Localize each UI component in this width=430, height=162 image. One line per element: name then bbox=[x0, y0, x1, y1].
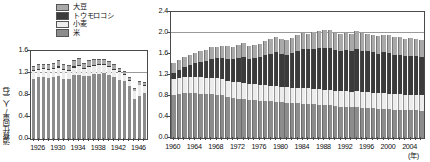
bar-segment-wheat bbox=[381, 93, 385, 108]
bar-segment-corn bbox=[279, 54, 283, 87]
bar-segment-rice bbox=[419, 111, 423, 138]
bar-segment-corn bbox=[209, 59, 213, 78]
bar-segment-rice bbox=[220, 95, 224, 138]
x-tick-mark bbox=[297, 137, 298, 140]
bar-segment-wheat bbox=[188, 77, 192, 93]
x-tick-mark bbox=[291, 137, 292, 140]
x-tick-label: 1984 bbox=[294, 142, 309, 151]
bar-segment-wheat bbox=[333, 91, 337, 106]
x-tick-mark bbox=[88, 138, 89, 141]
x-tick-mark bbox=[329, 137, 330, 140]
x-tick-mark bbox=[345, 137, 346, 140]
bar-segment-soy bbox=[408, 38, 412, 56]
x-tick-mark bbox=[58, 138, 59, 141]
bar-1967 bbox=[209, 47, 213, 138]
bar-segment-corn bbox=[284, 55, 288, 88]
bar-segment-wheat bbox=[133, 91, 136, 99]
bar-segment-corn bbox=[177, 70, 181, 78]
bar-segment-soy bbox=[274, 37, 278, 52]
bar-segment-soy bbox=[215, 47, 219, 59]
bar-segment-soy bbox=[360, 33, 364, 51]
x-tick-mark bbox=[221, 137, 222, 140]
bar-segment-wheat bbox=[311, 89, 315, 105]
x-tick-mark bbox=[286, 137, 287, 140]
bar-segment-wheat bbox=[247, 84, 251, 100]
bar-segment-rice bbox=[82, 76, 85, 139]
bar-segment-soy bbox=[77, 58, 80, 65]
bar-segment-rice bbox=[138, 96, 141, 139]
bar-segment-rice bbox=[338, 107, 342, 139]
bar-segment-wheat bbox=[371, 93, 375, 108]
x-tick-mark bbox=[63, 138, 64, 141]
bar-segment-rice bbox=[37, 77, 40, 139]
bar-segment-wheat bbox=[204, 78, 208, 95]
bar-segment-rice bbox=[274, 102, 278, 138]
bar-segment-corn bbox=[301, 49, 305, 88]
bar-segment-rice bbox=[236, 99, 240, 138]
bar-segment-corn bbox=[349, 51, 353, 91]
bar-segment-wheat bbox=[57, 68, 60, 77]
bar-segment-rice bbox=[279, 102, 283, 138]
bar-segment-wheat bbox=[177, 78, 181, 94]
bar-segment-wheat bbox=[392, 94, 396, 109]
x-tick-mark bbox=[323, 137, 324, 140]
bar-segment-wheat bbox=[182, 77, 186, 93]
legend-swatch-wheat-icon bbox=[56, 21, 69, 29]
bar-segment-corn bbox=[274, 52, 278, 86]
x-tick-label: 1972 bbox=[230, 142, 245, 151]
bar-segment-corn bbox=[317, 48, 321, 89]
bar-1942 bbox=[118, 68, 121, 139]
bar-1937 bbox=[92, 59, 95, 139]
bar-segment-corn bbox=[215, 58, 219, 78]
y-tick-label: 0.0 bbox=[11, 133, 28, 142]
bar-segment-rice bbox=[47, 78, 50, 139]
bar-1972 bbox=[236, 45, 240, 138]
bar-1979 bbox=[274, 37, 278, 138]
bar-segment-wheat bbox=[387, 94, 391, 109]
bar-segment-corn bbox=[220, 58, 224, 79]
bar-segment-wheat bbox=[72, 68, 75, 75]
bar-segment-soy bbox=[387, 35, 391, 53]
x-tick-mark bbox=[194, 137, 195, 140]
bar-1993 bbox=[349, 34, 353, 138]
chart-figure: 大豆トウモロコシ小麦米 消費仕向量/人（石） 0.00.40.81.21.6 1… bbox=[0, 0, 430, 162]
bar-segment-rice bbox=[209, 94, 213, 138]
bar-segment-rice bbox=[387, 109, 391, 138]
bar-segment-soy bbox=[328, 30, 332, 47]
bar-segment-wheat bbox=[138, 85, 141, 96]
bar-1968 bbox=[215, 47, 219, 138]
bar-segment-soy bbox=[225, 46, 229, 59]
bar-segment-soy bbox=[263, 41, 267, 55]
bar-1943 bbox=[123, 71, 126, 139]
x-tick-mark bbox=[243, 137, 244, 140]
bar-segment-wheat bbox=[258, 85, 262, 101]
x-tick-mark bbox=[399, 137, 400, 140]
y-tick-label: 0.4 bbox=[11, 111, 28, 120]
bar-segment-rice bbox=[193, 93, 197, 138]
right-chart: 0.00.40.81.21.62.02.4 196019641968197219… bbox=[150, 0, 430, 162]
bar-1925 bbox=[32, 66, 35, 139]
bar-segment-wheat bbox=[236, 82, 240, 98]
bar-1995 bbox=[360, 33, 364, 138]
bar-segment-rice bbox=[177, 94, 181, 138]
y-tick-label: 1.2 bbox=[151, 69, 168, 78]
left-chart: 消費仕向量/人（石） 0.00.40.81.21.6 1926193019341… bbox=[0, 44, 150, 162]
bar-segment-wheat bbox=[97, 65, 100, 73]
x-tick-mark bbox=[404, 137, 405, 140]
bar-segment-wheat bbox=[414, 95, 418, 110]
bar-segment-rice bbox=[118, 80, 121, 139]
bar-segment-corn bbox=[182, 67, 186, 76]
bar-segment-rice bbox=[398, 110, 402, 138]
bar-1991 bbox=[338, 34, 342, 138]
bar-segment-soy bbox=[171, 63, 175, 72]
bar-segment-soy bbox=[57, 60, 60, 67]
x-tick-label: 1926 bbox=[30, 143, 45, 152]
bar-segment-corn bbox=[338, 51, 342, 91]
bar-segment-soy bbox=[295, 35, 299, 51]
bar-1929 bbox=[52, 63, 55, 139]
bar-segment-rice bbox=[102, 73, 105, 139]
x-tick-mark bbox=[98, 138, 99, 141]
x-tick-mark bbox=[420, 137, 421, 140]
bar-segment-rice bbox=[241, 99, 245, 138]
bar-1945 bbox=[133, 88, 136, 139]
